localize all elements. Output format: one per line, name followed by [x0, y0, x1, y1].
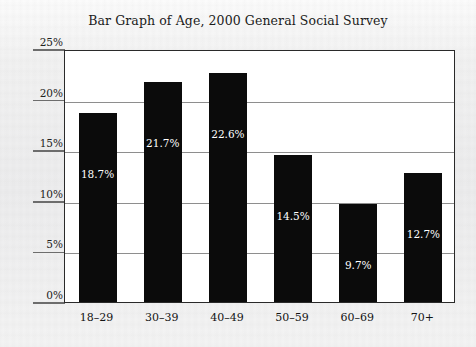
bar: 12.7% [404, 173, 442, 302]
y-axis-label: 10% [3, 188, 63, 200]
x-axis-label: 70+ [390, 311, 455, 324]
gridline [65, 102, 454, 103]
bar-value-label: 22.6% [209, 128, 247, 140]
bar: 21.7% [144, 82, 182, 302]
bar: 18.7% [79, 113, 117, 302]
chart-title: Bar Graph of Age, 2000 General Social Su… [0, 13, 476, 28]
bar: 14.5% [274, 155, 312, 302]
chart-page: Bar Graph of Age, 2000 General Social Su… [0, 0, 476, 347]
y-axis-label: 20% [3, 87, 63, 99]
y-axis-tick [33, 100, 65, 102]
x-axis-label: 30–39 [129, 311, 194, 324]
y-axis-label: 15% [3, 137, 63, 149]
y-axis-label: 0% [3, 289, 63, 301]
gridline [65, 152, 454, 153]
bar-value-label: 12.7% [404, 228, 442, 240]
x-axis-label: 60–69 [325, 311, 390, 324]
bar: 22.6% [209, 73, 247, 302]
gridline [65, 203, 454, 204]
y-axis-label: 25% [3, 36, 63, 48]
y-axis-tick [33, 49, 65, 51]
y-axis-tick [33, 302, 65, 304]
bar: 9.7% [339, 204, 377, 302]
gridline [65, 253, 454, 254]
plot-area: 18.7%21.7%22.6%14.5%9.7%12.7% [64, 50, 455, 303]
y-axis-label: 5% [3, 238, 63, 250]
bar-value-label: 18.7% [79, 168, 117, 180]
y-axis-tick [33, 252, 65, 254]
y-axis-tick [33, 150, 65, 152]
x-axis-label: 18–29 [64, 311, 129, 324]
bar-value-label: 9.7% [339, 259, 377, 271]
bar-value-label: 21.7% [144, 137, 182, 149]
y-axis-tick [33, 201, 65, 203]
bar-value-label: 14.5% [274, 210, 312, 222]
x-axis-label: 50–59 [260, 311, 325, 324]
x-axis-label: 40–49 [194, 311, 259, 324]
